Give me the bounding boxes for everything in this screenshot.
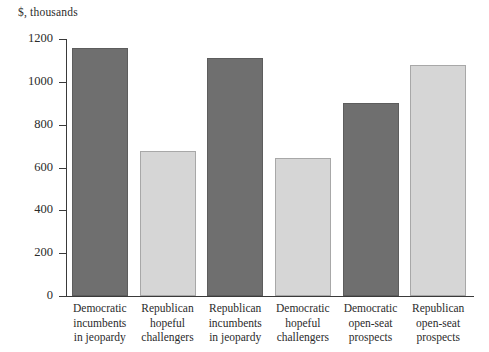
bar (275, 158, 331, 296)
category-label-line: open-seat (337, 316, 405, 331)
y-axis-unit-label: $, thousands (18, 6, 78, 18)
plot-area (66, 39, 472, 296)
y-axis-tick-label: 200 (34, 245, 53, 260)
category-label-line: challengers (269, 330, 337, 345)
x-axis-category-label: Democraticincumbentsin jeopardy (66, 301, 134, 345)
y-axis-tick-mark (59, 82, 66, 83)
x-axis-category-label: Republicanhopefulchallengers (134, 301, 202, 345)
category-label-line: hopeful (269, 316, 337, 331)
bar (207, 58, 263, 296)
x-axis-category-label: Democraticopen-seatprospects (337, 301, 405, 345)
category-label-line: Republican (404, 301, 472, 316)
x-axis-category-label: Republicanopen-seatprospects (404, 301, 472, 345)
y-axis-tick-mark (59, 296, 66, 297)
category-label-line: prospects (337, 330, 405, 345)
bar (140, 151, 196, 296)
chart-page: $, thousands 120010008006004002000 Democ… (0, 0, 489, 352)
category-label-line: Democratic (269, 301, 337, 316)
y-axis-tick-mark (59, 253, 66, 254)
y-axis-tick-label: 800 (34, 117, 53, 132)
bar (72, 48, 128, 296)
y-axis-tick-mark (59, 39, 66, 40)
category-label-line: open-seat (404, 316, 472, 331)
category-label-line: hopeful (134, 316, 202, 331)
bar (343, 103, 399, 296)
category-label-line: in jeopardy (201, 330, 269, 345)
x-axis-category-labels: Democraticincumbentsin jeopardyRepublica… (66, 301, 472, 351)
y-axis-tick-label: 600 (34, 160, 53, 175)
y-axis-tick-mark (59, 168, 66, 169)
category-label-line: prospects (404, 330, 472, 345)
bar (410, 65, 466, 296)
y-axis-tick-mark (59, 210, 66, 211)
category-label-line: incumbents (201, 316, 269, 331)
x-axis-line (62, 296, 474, 297)
category-label-line: Democratic (337, 301, 405, 316)
y-axis-tick-label: 1000 (28, 74, 53, 89)
category-label-line: Republican (134, 301, 202, 316)
category-label-line: challengers (134, 330, 202, 345)
category-label-line: in jeopardy (66, 330, 134, 345)
y-axis-tick-mark (59, 125, 66, 126)
y-axis-tick-label: 0 (47, 288, 53, 303)
category-label-line: Democratic (66, 301, 134, 316)
y-axis-tick-label: 400 (34, 202, 53, 217)
x-axis-category-label: Republicanincumbentsin jeopardy (201, 301, 269, 345)
y-axis-tick-label: 1200 (28, 31, 53, 46)
category-label-line: Republican (201, 301, 269, 316)
category-label-line: incumbents (66, 316, 134, 331)
x-axis-category-label: Democratichopefulchallengers (269, 301, 337, 345)
